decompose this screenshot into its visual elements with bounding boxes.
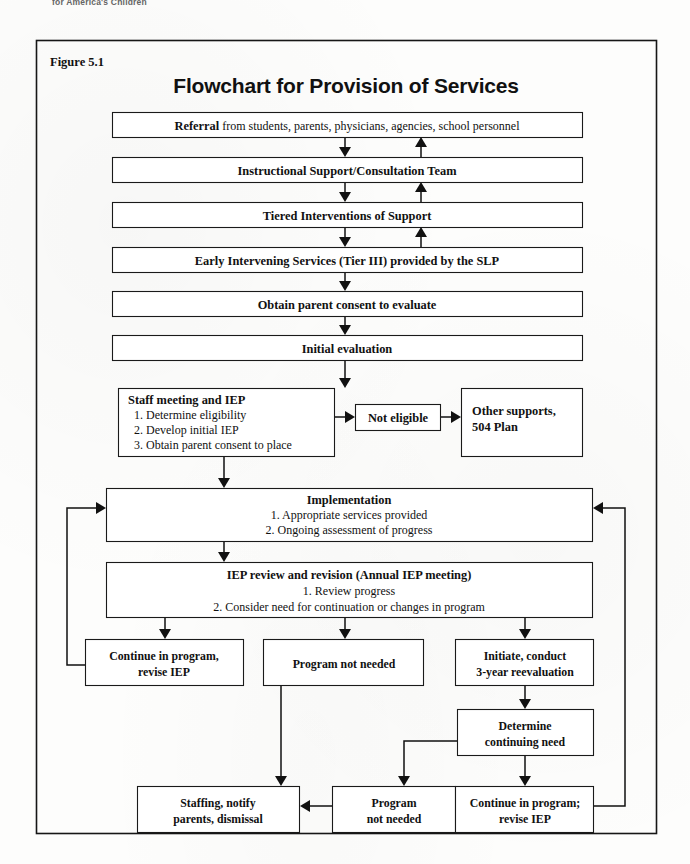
node-staff-meeting-iep-item-2: 2. Develop initial IEP: [134, 423, 239, 437]
node-referral-bold: Referral: [175, 119, 220, 133]
node-continue-revise-iep-low-line-2: revise IEP: [499, 812, 551, 826]
node-instructional-support-team[interactable]: Instructional Support/Consultation Team: [113, 158, 583, 183]
node-implementation[interactable]: Implementation 1. Appropriate services p…: [107, 489, 593, 542]
node-iep-review-item-2: 2. Consider need for continuation or cha…: [213, 600, 485, 614]
node-not-eligible-label: Not eligible: [368, 411, 429, 425]
node-staffing-dismissal-line-2: parents, dismissal: [173, 812, 263, 826]
node-early-intervening-services[interactable]: Early Intervening Services (Tier III) pr…: [113, 248, 583, 273]
node-reevaluation-line-2: 3-year reevaluation: [476, 665, 574, 679]
node-instructional-support-team-label: Instructional Support/Consultation Team: [238, 164, 458, 178]
node-reevaluation-line-1: Initiate, conduct: [484, 649, 567, 663]
node-continue-revise-iep-line-1: Continue in program,: [109, 649, 219, 663]
node-iep-review[interactable]: IEP review and revision (Annual IEP meet…: [107, 563, 593, 618]
node-referral-rest: from students, parents, physicians, agen…: [219, 119, 520, 133]
node-staff-meeting-iep-heading: Staff meeting and IEP: [128, 393, 246, 407]
node-continue-revise-iep-low[interactable]: Continue in program; revise IEP: [456, 787, 594, 833]
node-other-supports[interactable]: Other supports, 504 Plan: [462, 389, 583, 457]
figure-label: Figure 5.1: [50, 55, 104, 69]
node-continue-revise-iep-low-line-1: Continue in program;: [470, 796, 581, 810]
node-tiered-interventions-label: Tiered Interventions of Support: [263, 209, 432, 223]
node-staff-meeting-iep-item-3: 3. Obtain parent consent to place: [134, 438, 292, 452]
node-initial-evaluation-label: Initial evaluation: [302, 342, 393, 356]
node-referral[interactable]: Referral from students, parents, physici…: [113, 113, 583, 138]
node-implementation-item-2: 2. Ongoing assessment of progress: [266, 523, 433, 537]
node-determine-continuing-need-line-1: Determine: [498, 719, 551, 733]
node-implementation-item-1: 1. Appropriate services provided: [271, 508, 428, 522]
node-not-eligible[interactable]: Not eligible: [356, 405, 441, 431]
node-staffing-dismissal-line-1: Staffing, notify: [180, 796, 255, 810]
node-continue-revise-iep-line-2: revise IEP: [138, 665, 190, 679]
node-parent-consent-label: Obtain parent consent to evaluate: [258, 298, 437, 312]
node-staff-meeting-iep-item-1: 1. Determine eligibility: [134, 408, 246, 422]
page-background: for America's Children Figure 5.1 Flowch…: [0, 0, 690, 864]
node-initial-evaluation[interactable]: Initial evaluation: [113, 336, 583, 361]
node-iep-review-heading: IEP review and revision (Annual IEP meet…: [227, 568, 472, 582]
node-implementation-heading: Implementation: [307, 493, 392, 507]
node-program-not-needed-low-line-2: not needed: [367, 812, 422, 826]
node-determine-continuing-need[interactable]: Determine continuing need: [458, 710, 594, 756]
node-staffing-dismissal[interactable]: Staffing, notify parents, dismissal: [138, 787, 300, 833]
node-continue-revise-iep[interactable]: Continue in program, revise IEP: [86, 640, 244, 686]
flowchart-figure: Figure 5.1 Flowchart for Provision of Se…: [0, 0, 690, 864]
node-program-not-needed-low[interactable]: Program not needed: [333, 787, 456, 833]
node-tiered-interventions[interactable]: Tiered Interventions of Support: [113, 203, 583, 228]
node-other-supports-line-1: Other supports,: [472, 404, 556, 418]
node-program-not-needed-mid[interactable]: Program not needed: [264, 640, 424, 686]
node-early-intervening-services-label: Early Intervening Services (Tier III) pr…: [195, 254, 500, 268]
node-parent-consent[interactable]: Obtain parent consent to evaluate: [113, 292, 583, 317]
node-other-supports-line-2: 504 Plan: [472, 420, 518, 434]
node-staff-meeting-iep[interactable]: Staff meeting and IEP 1. Determine eligi…: [119, 389, 335, 457]
node-reevaluation[interactable]: Initiate, conduct 3-year reevaluation: [456, 640, 594, 686]
node-iep-review-item-1: 1. Review progress: [303, 584, 396, 598]
node-program-not-needed-mid-label: Program not needed: [293, 657, 396, 671]
chart-title: Flowchart for Provision of Services: [173, 74, 518, 97]
node-referral-label: Referral from students, parents, physici…: [175, 119, 521, 133]
node-determine-continuing-need-line-2: continuing need: [485, 735, 566, 749]
node-program-not-needed-low-line-1: Program: [372, 796, 417, 810]
